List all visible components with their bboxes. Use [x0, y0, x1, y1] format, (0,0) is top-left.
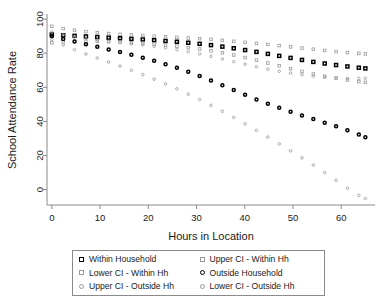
- legend-label: Lower CI - Within Hh: [89, 269, 168, 278]
- svg-text:30: 30: [191, 212, 202, 223]
- square-marker-icon: [200, 257, 205, 262]
- svg-text:100: 100: [34, 11, 45, 27]
- chart-legend: Within Household Upper CI - Within Hh Lo…: [72, 250, 325, 296]
- legend-label: Lower CI - Outside Hh: [210, 282, 295, 291]
- svg-text:40: 40: [239, 212, 250, 223]
- svg-text:80: 80: [34, 48, 45, 59]
- chart-figure: 0204060801000102030405060 Hours in Locat…: [0, 0, 386, 304]
- svg-text:40: 40: [34, 116, 45, 127]
- y-axis-label: School Attendance Rate: [6, 51, 18, 169]
- x-axis-label: Hours in Location: [168, 230, 254, 242]
- svg-text:10: 10: [95, 212, 106, 223]
- square-marker-icon: [79, 270, 84, 275]
- svg-text:20: 20: [143, 212, 154, 223]
- legend-item-within-household: Within Household: [79, 253, 200, 266]
- legend-item-lower-ci-within-hh: Lower CI - Within Hh: [79, 266, 200, 279]
- legend-item-upper-ci-within-hh: Upper CI - Within Hh: [200, 253, 321, 266]
- svg-text:60: 60: [336, 212, 347, 223]
- legend-item-outside-household: Outside Household: [200, 266, 321, 279]
- series-layer: [50, 25, 367, 200]
- scatter-plot: 0204060801000102030405060 Hours in Locat…: [0, 0, 386, 250]
- circle-marker-icon: [79, 284, 84, 289]
- legend-item-upper-ci-outside-hh: Upper CI - Outside Hh: [79, 280, 200, 293]
- square-marker-icon: [79, 257, 84, 262]
- legend-label: Upper CI - Within Hh: [210, 255, 289, 264]
- legend-label: Upper CI - Outside Hh: [89, 282, 174, 291]
- svg-text:0: 0: [34, 187, 45, 192]
- svg-text:60: 60: [34, 82, 45, 93]
- svg-text:20: 20: [34, 150, 45, 161]
- circle-marker-icon: [200, 284, 205, 289]
- legend-item-lower-ci-outside-hh: Lower CI - Outside Hh: [200, 280, 321, 293]
- svg-text:50: 50: [288, 212, 299, 223]
- legend-label: Outside Household: [210, 269, 283, 278]
- svg-text:0: 0: [49, 212, 54, 223]
- legend-label: Within Household: [89, 255, 156, 264]
- circle-marker-icon: [200, 270, 205, 275]
